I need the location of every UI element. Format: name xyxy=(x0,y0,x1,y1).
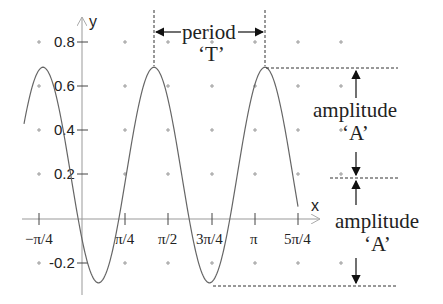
amplitude-symbol-lower: ‘A’ xyxy=(364,232,391,256)
y-tick-label: -0.2 xyxy=(49,254,75,271)
axis-ticks xyxy=(39,42,298,263)
y-axis-label: y xyxy=(89,13,97,30)
amplitude-symbol-upper: ‘A’ xyxy=(342,121,369,145)
x-axis-label: x xyxy=(311,197,319,214)
period-symbol: ‘T’ xyxy=(198,42,225,66)
x-tick-label: π xyxy=(250,231,258,247)
sine-chart: y x 0.8 0.6 0.4 0.2 -0.2 −π/4 π/4 π/2 3π… xyxy=(0,0,443,304)
x-tick-label: −π/4 xyxy=(25,231,53,247)
x-tick-label: 3π/4 xyxy=(196,231,223,247)
y-tick-label: 0.8 xyxy=(54,33,75,50)
x-tick-label: π/4 xyxy=(115,231,135,247)
period-label: period xyxy=(182,20,236,44)
x-tick-label: 5π/4 xyxy=(284,231,311,247)
chart-canvas: y x 0.8 0.6 0.4 0.2 -0.2 −π/4 π/4 π/2 3π… xyxy=(0,0,443,304)
y-tick-label: 0.6 xyxy=(54,77,75,94)
amplitude-label-lower: amplitude xyxy=(335,209,419,233)
amplitude-label-upper: amplitude xyxy=(313,98,397,122)
x-tick-label: π/2 xyxy=(158,231,177,247)
